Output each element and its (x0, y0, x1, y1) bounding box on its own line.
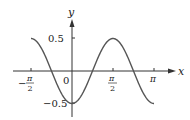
x-tick-label-pi: π (149, 74, 157, 84)
y-tick-label-neg: −0.5 (43, 98, 67, 109)
svg-text:2: 2 (28, 84, 33, 93)
x-axis-arrow-icon (168, 69, 176, 74)
svg-text:π: π (108, 74, 115, 83)
x-tick-label-pi-half: π 2 (108, 74, 117, 93)
chart: x y − π 2 π 2 π 0 0.5 −0.5 (0, 0, 190, 120)
svg-text:π: π (26, 74, 33, 83)
origin-label: 0 (63, 75, 69, 86)
svg-text:−: − (18, 78, 26, 89)
svg-text:2: 2 (110, 84, 115, 93)
y-axis-arrow-icon (70, 19, 75, 27)
y-axis-label: y (67, 6, 75, 19)
y-tick-label-pos: 0.5 (48, 33, 64, 44)
x-tick-label-neg-pi-half: − π 2 (18, 74, 34, 93)
x-axis-label: x (178, 65, 185, 78)
